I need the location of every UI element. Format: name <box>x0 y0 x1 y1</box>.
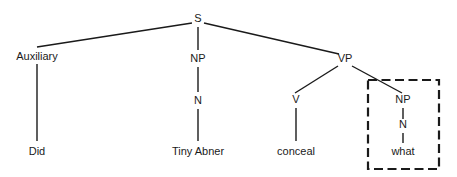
node-auxiliary: Auxiliary <box>16 50 58 62</box>
leaf-conceal: conceal <box>277 145 315 157</box>
leaf-what: what <box>390 145 414 157</box>
leaf-did: Did <box>29 145 46 157</box>
edge-s-to-vp <box>204 23 339 54</box>
syntax-tree-figure: S Auxiliary NP VP N V NP N Did Tiny Abne… <box>0 0 457 177</box>
node-np-object: NP <box>395 93 410 105</box>
edge-s-to-auxiliary <box>37 23 192 47</box>
node-v: V <box>292 93 300 105</box>
node-n-object: N <box>399 118 407 130</box>
tree-edges <box>37 23 403 143</box>
tree-leaf-labels: Did Tiny Abner conceal what <box>29 145 415 157</box>
node-n-subject: N <box>194 94 202 106</box>
edge-vp-to-v <box>295 66 338 93</box>
leaf-tiny-abner: Tiny Abner <box>172 145 225 157</box>
tree-node-labels: S Auxiliary NP VP N V NP N <box>16 12 410 130</box>
node-s: S <box>194 12 201 24</box>
node-vp: VP <box>338 52 353 64</box>
node-np-subject: NP <box>190 52 205 64</box>
syntax-tree-canvas: S Auxiliary NP VP N V NP N Did Tiny Abne… <box>0 0 457 177</box>
